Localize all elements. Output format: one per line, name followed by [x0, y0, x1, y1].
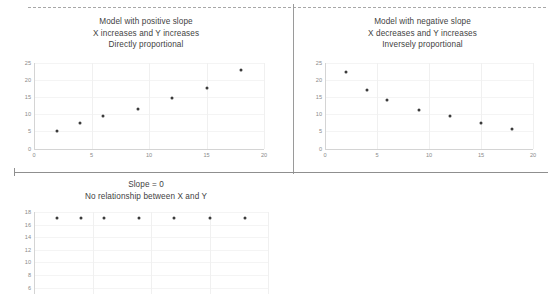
- data-point: [79, 122, 82, 125]
- data-point: [208, 217, 211, 220]
- chart-title-line-3: Inversely proportional: [295, 39, 550, 51]
- scatter-plot-zero: 681012141618: [18, 208, 272, 294]
- data-point: [103, 217, 106, 220]
- panel-vertical-divider: [293, 4, 294, 174]
- y-axis-tick-label: 10: [309, 111, 322, 117]
- x-axis-tick-label: 5: [375, 152, 378, 158]
- data-point: [386, 98, 389, 101]
- data-point: [344, 71, 347, 74]
- scatter-plot-negative: 051015202505101520: [309, 59, 537, 163]
- y-axis-tick-label: 15: [18, 94, 31, 100]
- y-axis-line: [325, 63, 326, 149]
- chart-title-line-1: Slope = 0: [0, 179, 292, 191]
- data-point: [102, 114, 105, 117]
- data-point: [171, 96, 174, 99]
- y-axis-tick-label: 14: [18, 234, 31, 240]
- data-point: [448, 115, 451, 118]
- y-axis-tick-label: 8: [18, 272, 31, 278]
- x-axis-line: [325, 149, 533, 150]
- gridline-vertical: [264, 63, 265, 149]
- data-point: [243, 217, 246, 220]
- x-axis-tick-label: 5: [90, 152, 93, 158]
- gridline-vertical: [151, 212, 152, 294]
- y-axis-tick-label: 20: [309, 77, 322, 83]
- y-axis-tick-label: 10: [18, 259, 31, 265]
- x-axis-line: [34, 149, 264, 150]
- data-point: [56, 217, 59, 220]
- chart-title-line-2: X increases and Y increases: [0, 28, 292, 40]
- y-axis-tick-label: 12: [18, 247, 31, 253]
- chart-title-line-3: Directly proportional: [0, 39, 292, 51]
- data-point: [417, 108, 420, 111]
- data-point: [173, 217, 176, 220]
- y-axis-line: [34, 63, 35, 149]
- panel-horizontal-divider: [14, 172, 548, 173]
- y-axis-tick-label: 16: [18, 222, 31, 228]
- gridline-vertical: [533, 63, 534, 149]
- y-axis-tick-label: 0: [309, 146, 322, 152]
- chart-title-line-2: X decreases and Y increases: [295, 28, 550, 40]
- data-point: [205, 86, 208, 89]
- gridline-vertical: [207, 63, 208, 149]
- x-axis-tick-label: 10: [146, 152, 152, 158]
- x-axis-tick-label: 20: [261, 152, 267, 158]
- y-axis-tick-label: 10: [18, 111, 31, 117]
- y-axis-tick-label: 18: [18, 209, 31, 215]
- data-point: [511, 127, 514, 130]
- y-axis-tick-label: 20: [18, 77, 31, 83]
- x-axis-tick-label: 15: [478, 152, 484, 158]
- x-axis-tick-label: 15: [203, 152, 209, 158]
- chart-panel-positive-slope: Model with positive slope X increases an…: [0, 10, 292, 172]
- y-axis-tick-label: 25: [18, 60, 31, 66]
- data-point: [56, 129, 59, 132]
- gridline-vertical: [210, 212, 211, 294]
- x-axis-tick-label: 10: [426, 152, 432, 158]
- gridline-vertical: [481, 63, 482, 149]
- y-axis-tick-label: 6: [18, 285, 31, 291]
- gridline-vertical: [93, 212, 94, 294]
- gridline-vertical: [92, 63, 93, 149]
- y-axis-tick-label: 15: [309, 94, 322, 100]
- chart-title-line-1: Model with negative slope: [295, 16, 550, 28]
- data-point: [480, 121, 483, 124]
- data-point: [365, 89, 368, 92]
- y-axis-tick-label: 0: [18, 146, 31, 152]
- gridline-vertical: [268, 212, 269, 294]
- y-axis-tick-label: 25: [309, 60, 322, 66]
- chart-title-negative: Model with negative slope X decreases an…: [295, 16, 550, 51]
- y-axis-line: [34, 212, 35, 294]
- data-point: [79, 217, 82, 220]
- top-dashed-rule: [28, 7, 546, 8]
- gridline-vertical: [429, 63, 430, 149]
- chart-panel-zero-slope: Slope = 0 No relationship between X and …: [0, 178, 292, 292]
- x-axis-tick-label: 20: [530, 152, 536, 158]
- scatter-plot-positive: 051015202505101520: [18, 59, 268, 163]
- data-point: [136, 107, 139, 110]
- chart-title-line-1: Model with positive slope: [0, 16, 292, 28]
- x-axis-tick-label: 0: [32, 152, 35, 158]
- gridline-vertical: [377, 63, 378, 149]
- y-axis-tick-label: 5: [309, 128, 322, 134]
- x-axis-tick-label: 0: [323, 152, 326, 158]
- data-point: [138, 217, 141, 220]
- chart-title-zero: Slope = 0 No relationship between X and …: [0, 179, 292, 202]
- chart-title-positive: Model with positive slope X increases an…: [0, 16, 292, 51]
- chart-title-line-2: No relationship between X and Y: [0, 191, 292, 203]
- y-axis-tick-label: 5: [18, 128, 31, 134]
- gridline-vertical: [149, 63, 150, 149]
- data-point: [240, 69, 243, 72]
- chart-panel-negative-slope: Model with negative slope X decreases an…: [295, 10, 550, 172]
